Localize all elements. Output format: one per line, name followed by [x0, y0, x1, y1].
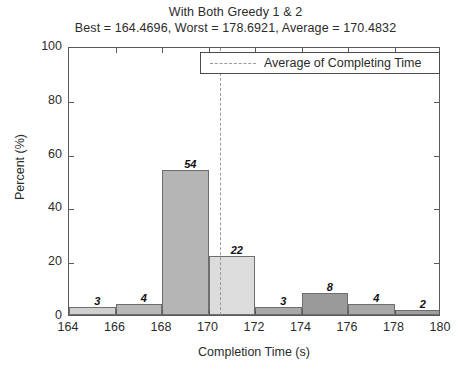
legend[interactable]: Average of Completing Time: [200, 52, 440, 74]
x-tick-label: 170: [197, 320, 218, 334]
y-tick-label: 20: [24, 254, 62, 268]
bar-value-label: 2: [420, 298, 426, 310]
y-tick-label: 80: [24, 93, 62, 107]
legend-label-average: Average of Completing Time: [264, 56, 422, 70]
histogram-bar: [162, 170, 209, 315]
x-axis-tick: [116, 310, 117, 315]
bar-value-label: 54: [184, 158, 196, 170]
x-axis-tick: [255, 310, 256, 315]
x-tick-label: 180: [430, 320, 451, 334]
y-axis-tick: [69, 156, 74, 157]
chart-subtitle: Best = 164.4696, Worst = 178.6921, Avera…: [0, 21, 471, 37]
y-axis-tick: [69, 102, 74, 103]
y-axis-tick-right: [434, 156, 439, 157]
histogram-bar: [395, 310, 441, 315]
y-axis-tick-right: [434, 209, 439, 210]
x-axis-tick: [348, 310, 349, 315]
x-axis-tick: [395, 310, 396, 315]
histogram-bar: [348, 304, 395, 315]
histogram-bar: [302, 293, 349, 315]
plot-area: [68, 47, 440, 316]
bar-value-label: 4: [373, 292, 379, 304]
bar-value-label: 3: [94, 295, 100, 307]
chart-title: With Both Greedy 1 & 2: [0, 5, 471, 21]
y-tick-label: 0: [24, 308, 62, 322]
average-completion-time-line: [220, 48, 221, 315]
legend-dashed-line-icon: [210, 63, 256, 64]
bar-value-label: 22: [231, 244, 243, 256]
histogram-bar: [116, 304, 163, 315]
y-axis-tick: [69, 263, 74, 264]
x-tick-label: 178: [383, 320, 404, 334]
y-tick-label: 60: [24, 147, 62, 161]
x-tick-label: 164: [58, 320, 79, 334]
x-tick-label: 174: [290, 320, 311, 334]
bar-value-label: 4: [141, 292, 147, 304]
y-axis-tick-right: [434, 263, 439, 264]
y-axis-tick: [69, 209, 74, 210]
x-axis-tick: [302, 310, 303, 315]
x-tick-label: 172: [244, 320, 265, 334]
x-axis-tick-top: [116, 48, 117, 53]
y-axis-tick-right: [434, 102, 439, 103]
bar-value-label: 8: [327, 281, 333, 293]
histogram-figure: With Both Greedy 1 & 2 Best = 164.4696, …: [0, 0, 471, 373]
histogram-bar: [69, 307, 116, 315]
y-tick-label: 40: [24, 200, 62, 214]
x-tick-label: 166: [104, 320, 125, 334]
x-axis-tick-top: [162, 48, 163, 53]
x-tick-label: 176: [337, 320, 358, 334]
x-axis-tick: [209, 310, 210, 315]
histogram-bar: [255, 307, 302, 315]
y-tick-label: 100: [24, 39, 62, 53]
chart-title-block: With Both Greedy 1 & 2 Best = 164.4696, …: [0, 5, 471, 36]
histogram-bar: [209, 256, 256, 315]
x-axis-tick: [162, 310, 163, 315]
x-tick-label: 168: [151, 320, 172, 334]
x-axis-title: Completion Time (s): [68, 345, 440, 359]
bar-value-label: 3: [280, 295, 286, 307]
